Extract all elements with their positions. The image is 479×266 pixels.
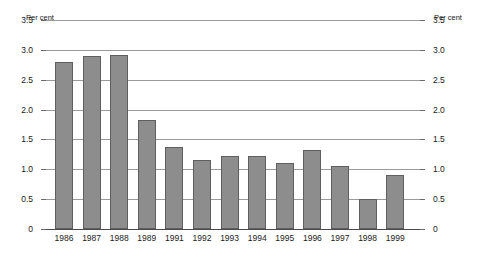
y-axis-tick xyxy=(41,229,46,230)
y-axis-tick xyxy=(420,169,425,170)
y-axis-tick-label: 1.5 xyxy=(9,135,33,144)
y-axis-tick-label: 2.0 xyxy=(9,106,33,115)
y-axis-tick-label: 3.5 xyxy=(9,16,33,25)
y-axis-tick xyxy=(41,169,46,170)
y-axis-tick-label: 1.0 xyxy=(9,165,33,174)
bar xyxy=(331,166,349,229)
y-axis-tick xyxy=(420,199,425,200)
y-axis-tick xyxy=(41,80,46,81)
bar xyxy=(83,56,101,229)
axis-baseline xyxy=(46,229,420,230)
bar xyxy=(276,163,294,229)
bar-chart: Per cent Per cent 3.53.02.52.01.51.00.50… xyxy=(0,0,479,266)
x-axis-tick-label: 1999 xyxy=(378,234,412,243)
y-axis-tick xyxy=(420,110,425,111)
y-axis-tick xyxy=(41,199,46,200)
y-axis-tick xyxy=(41,139,46,140)
y-axis-tick-label: 2.0 xyxy=(433,106,457,115)
bar xyxy=(386,175,404,229)
bar xyxy=(221,156,239,229)
bar xyxy=(193,160,211,229)
bar xyxy=(55,62,73,229)
y-axis-tick xyxy=(420,139,425,140)
y-axis-tick-label: 0 xyxy=(9,225,33,234)
bar xyxy=(110,55,128,229)
y-axis-tick-label: 3.0 xyxy=(9,46,33,55)
y-axis-tick xyxy=(420,229,425,230)
bar xyxy=(359,199,377,229)
y-axis-tick-label: 1.0 xyxy=(433,165,457,174)
bar xyxy=(248,156,266,229)
y-axis-tick xyxy=(41,110,46,111)
y-axis-tick xyxy=(420,50,425,51)
y-axis-tick-label: 0.5 xyxy=(433,195,457,204)
y-axis-tick-label: 0.5 xyxy=(9,195,33,204)
y-axis-tick xyxy=(41,50,46,51)
plot-area xyxy=(46,20,420,229)
y-axis-tick-label: 2.5 xyxy=(9,76,33,85)
bar-series xyxy=(46,20,420,229)
y-axis-tick xyxy=(420,80,425,81)
bar xyxy=(303,150,321,229)
bar xyxy=(165,147,183,229)
bar xyxy=(138,120,156,229)
y-axis-tick-label: 0 xyxy=(433,225,457,234)
y-axis-tick xyxy=(420,20,425,21)
y-axis-tick xyxy=(41,20,46,21)
y-axis-tick-label: 1.5 xyxy=(433,135,457,144)
y-axis-tick-label: 3.0 xyxy=(433,46,457,55)
y-axis-tick-label: 2.5 xyxy=(433,76,457,85)
y-axis-tick-label: 3.5 xyxy=(433,16,457,25)
